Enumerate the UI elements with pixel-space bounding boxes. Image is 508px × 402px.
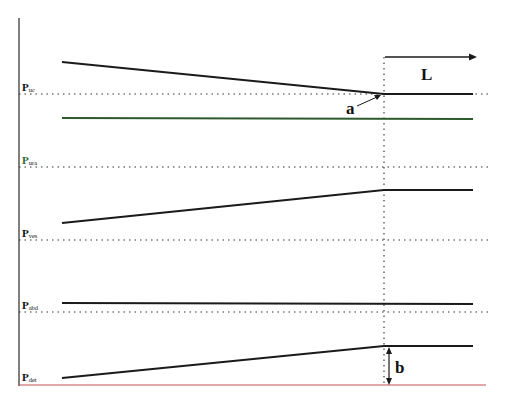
trace-abd <box>62 303 473 304</box>
a-arrow <box>357 97 377 106</box>
trace-ura <box>62 118 473 119</box>
l-arrowhead <box>469 54 477 61</box>
label-p-det: Pdet <box>22 371 37 383</box>
pressure-diagram: L a b Puc Pura Pves Pabd Pdet <box>0 0 508 402</box>
label-p-ves: Pves <box>22 227 38 239</box>
label-p-abd: Pabd <box>22 299 39 311</box>
label-b: b <box>395 358 404 377</box>
trace-uc <box>62 62 473 94</box>
label-a: a <box>346 99 355 118</box>
b-arrowhead-top <box>386 347 392 354</box>
b-arrowhead-bottom <box>386 378 392 385</box>
label-p-uc: Puc <box>22 81 35 93</box>
label-p-ura: Pura <box>22 154 37 166</box>
trace-det <box>62 346 473 378</box>
trace-ves <box>62 190 473 223</box>
label-L: L <box>421 65 432 84</box>
